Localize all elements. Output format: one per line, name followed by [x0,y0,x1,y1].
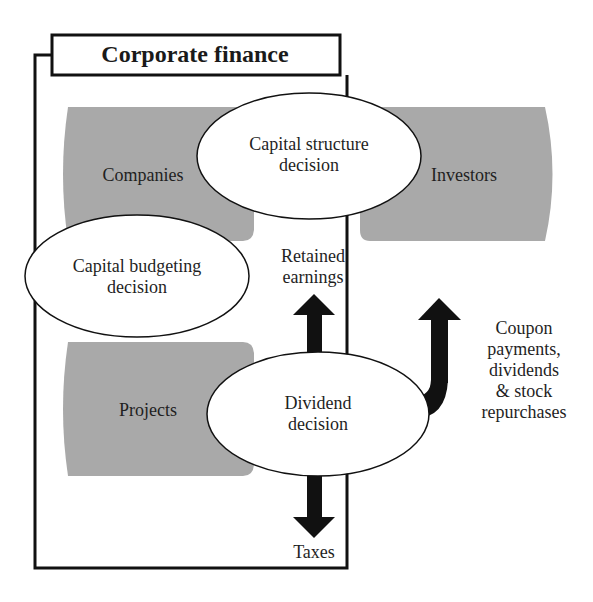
retained-earnings-label: Retained earnings [268,246,358,288]
payouts-line-5: repurchases [462,402,586,423]
diagram-title: Corporate finance [52,35,338,73]
taxes-label: Taxes [274,542,354,563]
capital-structure-label: Capital structure decision [224,134,394,176]
payouts-line-2: payments, [462,339,586,360]
retained-earnings-line-1: Retained [268,246,358,267]
payouts-label: Coupon payments, dividends & stock repur… [462,318,586,423]
dividend-line-2: decision [248,414,388,435]
taxes-arrow-icon [293,470,335,538]
payouts-line-4: & stock [462,381,586,402]
dividend-line-1: Dividend [248,393,388,414]
capital-budgeting-line-2: decision [52,277,222,298]
capital-budgeting-line-1: Capital budgeting [52,256,222,277]
retained-earnings-line-2: earnings [268,267,358,288]
investors-label: Investors [414,165,514,186]
capital-structure-line-2: decision [224,155,394,176]
payouts-line-3: dividends [462,360,586,381]
capital-structure-line-1: Capital structure [224,134,394,155]
projects-label: Projects [108,400,188,421]
companies-label: Companies [88,165,198,186]
dividend-label: Dividend decision [248,393,388,435]
diagram-canvas [0,0,593,602]
payouts-line-1: Coupon [462,318,586,339]
capital-budgeting-label: Capital budgeting decision [52,256,222,298]
